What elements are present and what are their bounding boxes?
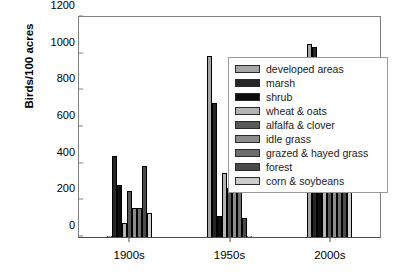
legend-label: alfalfa & clover xyxy=(266,120,335,131)
x-axis-tick-mark xyxy=(129,237,130,242)
legend-label: shrub xyxy=(266,92,292,103)
bar xyxy=(147,213,152,237)
y-axis-tick-label: 0 xyxy=(69,219,75,231)
legend-item: grazed & hayed grass xyxy=(233,146,384,160)
y-axis-tick-label: 1000 xyxy=(51,36,75,48)
legend-item: developed areas xyxy=(233,62,384,76)
legend-swatch xyxy=(235,107,260,115)
x-axis-tick-mark xyxy=(229,237,230,242)
legend-label: developed areas xyxy=(266,64,344,75)
bar-group-1900s xyxy=(79,17,179,237)
x-axis-tick-label: 2000s xyxy=(314,249,345,261)
legend-swatch xyxy=(235,65,260,73)
legend-label: grazed & hayed grass xyxy=(266,148,368,159)
y-axis-tick-label: 1200 xyxy=(51,0,75,11)
legend-swatch xyxy=(235,163,260,171)
y-axis-tick-label: 800 xyxy=(57,72,75,84)
legend-swatch xyxy=(235,121,260,129)
legend-label: forest xyxy=(266,162,292,173)
y-axis-tick-label: 600 xyxy=(57,109,75,121)
legend-label: corn & soybeans xyxy=(266,176,344,187)
legend-label: idle grass xyxy=(266,134,311,145)
bar-chart: Birds/100 acres 020040060080010001200 19… xyxy=(0,0,393,272)
legend-item: corn & soybeans xyxy=(233,174,384,188)
x-axis-tick-mark xyxy=(329,237,330,242)
y-axis-title: Birds/100 acres xyxy=(23,0,35,141)
y-axis-tick-label: 200 xyxy=(57,182,75,194)
y-axis-tick-label: 400 xyxy=(57,146,75,158)
x-axis-tick-label: 1900s xyxy=(113,249,144,261)
legend-item: idle grass xyxy=(233,132,384,146)
legend-item: alfalfa & clover xyxy=(233,118,384,132)
legend-swatch xyxy=(235,79,260,87)
legend-swatch xyxy=(235,149,260,157)
legend-item: shrub xyxy=(233,90,384,104)
legend-label: wheat & oats xyxy=(266,106,327,117)
legend-swatch xyxy=(235,177,260,185)
legend-item: forest xyxy=(233,160,384,174)
x-axis-tick-label: 1950s xyxy=(214,249,245,261)
bar xyxy=(242,218,247,237)
legend-swatch xyxy=(235,135,260,143)
legend-item: wheat & oats xyxy=(233,104,384,118)
chart-legend: developed areasmarshshrubwheat & oatsalf… xyxy=(228,57,388,193)
bar xyxy=(247,236,252,237)
legend-label: marsh xyxy=(266,78,295,89)
legend-item: marsh xyxy=(233,76,384,90)
legend-swatch xyxy=(235,93,260,101)
